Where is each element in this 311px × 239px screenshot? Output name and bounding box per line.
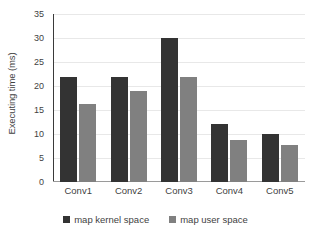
bar[interactable] xyxy=(161,38,178,182)
bar-group xyxy=(204,14,254,182)
x-axis-tick-label: Conv3 xyxy=(154,185,204,201)
legend-label: map user space xyxy=(180,214,248,225)
bar-group xyxy=(255,14,305,182)
bars-layer xyxy=(53,14,305,182)
bar[interactable] xyxy=(230,140,247,182)
y-axis-title-text: Executing time (ms) xyxy=(6,52,17,134)
legend-label: map kernel space xyxy=(74,214,149,225)
bar[interactable] xyxy=(180,77,197,182)
y-axis-tick-label: 20 xyxy=(34,81,44,91)
x-axis-tick-label: Conv1 xyxy=(53,185,103,201)
plot-area xyxy=(53,14,305,182)
y-axis-tick-label: 5 xyxy=(39,153,44,163)
y-axis-tick-label: 30 xyxy=(34,33,44,43)
x-axis-tick-label: Conv2 xyxy=(103,185,153,201)
x-axis-tick-labels: Conv1Conv2Conv3Conv4Conv5 xyxy=(53,185,305,201)
bar[interactable] xyxy=(211,124,228,182)
bar-group xyxy=(154,14,204,182)
legend-item[interactable]: map user space xyxy=(169,214,248,225)
y-axis-tick-label: 0 xyxy=(39,177,44,187)
y-axis-tick-label: 25 xyxy=(34,57,44,67)
legend-swatch-icon xyxy=(63,216,70,223)
bar[interactable] xyxy=(281,145,298,182)
bar[interactable] xyxy=(60,77,77,182)
bar[interactable] xyxy=(262,134,279,182)
legend-swatch-icon xyxy=(169,216,176,223)
chart-legend: map kernel spacemap user space xyxy=(0,211,311,227)
bar[interactable] xyxy=(111,77,128,182)
x-axis-tick-label: Conv4 xyxy=(204,185,254,201)
bar[interactable] xyxy=(130,91,147,182)
y-axis-tick-labels: 35302520151050 xyxy=(22,14,48,182)
y-axis-title: Executing time (ms) xyxy=(2,0,20,186)
y-axis-tick-label: 35 xyxy=(34,9,44,19)
bar-group xyxy=(53,14,103,182)
bar-chart: Executing time (ms) 35302520151050 Conv1… xyxy=(0,0,311,239)
y-axis-tick-label: 10 xyxy=(34,129,44,139)
bar-group xyxy=(103,14,153,182)
x-axis-tick-label: Conv5 xyxy=(255,185,305,201)
legend-item[interactable]: map kernel space xyxy=(63,214,149,225)
bar[interactable] xyxy=(79,104,96,182)
y-axis-tick-label: 15 xyxy=(34,105,44,115)
